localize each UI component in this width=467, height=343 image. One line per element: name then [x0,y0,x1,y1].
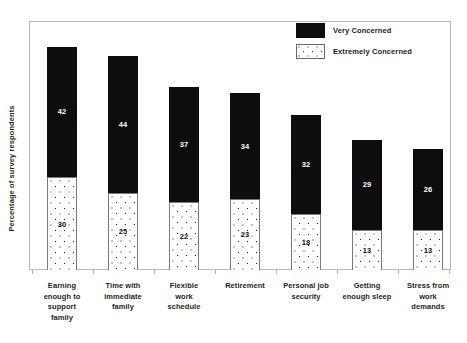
bar-segment-extremely-concerned: 18 [291,214,321,270]
y-axis-title-text: Percentage of survey respondents [7,105,16,231]
chart-figure: Percentage of survey respondents 4230442… [0,0,467,343]
solid-black-swatch-icon [296,23,325,38]
dotted-white-swatch-icon [296,44,325,59]
x-axis-tick [398,270,399,274]
bar-segment-very-concerned: 26 [413,149,443,230]
x-axis-label-6: Stress fromworkdemands [397,281,459,313]
bar-value-extremely-concerned: 30 [58,220,67,229]
x-axis-label-line: support [31,302,93,313]
bar-segment-extremely-concerned: 13 [352,230,382,270]
bar-segment-extremely-concerned: 25 [108,193,138,271]
bar-group: 4425 [108,56,138,270]
bar-segment-extremely-concerned: 13 [413,230,443,270]
legend-label-extremely-concerned: Extremely Concerned [333,47,412,56]
x-axis-label-line: family [31,313,93,324]
bar-group: 3423 [230,93,260,270]
bar-value-very-concerned: 34 [241,142,250,151]
x-axis-label-line: enough to [31,292,93,303]
bar-segment-extremely-concerned: 22 [169,202,199,270]
x-axis-label-2: Flexibleworkschedule [153,281,215,313]
x-axis-label-line: Getting [336,281,398,292]
x-axis-label-line: family [92,302,154,313]
chart-title [0,0,467,2]
bar-group: 2913 [352,140,382,270]
x-axis-label-line: Flexible [153,281,215,292]
x-axis-tick [215,270,216,274]
x-axis-label-line: work [397,292,459,303]
chart-legend: Very Concerned Extremely Concerned [296,23,446,65]
x-axis-label-line: security [275,292,337,303]
x-axis-label-line: Stress from [397,281,459,292]
bar-value-very-concerned: 26 [424,185,433,194]
x-axis-label-line: Earning [31,281,93,292]
x-axis-label-line: work [153,292,215,303]
bar-value-extremely-concerned: 13 [424,246,433,255]
x-axis-tick [337,270,338,274]
x-axis-label-line: immediate [92,292,154,303]
bar-segment-very-concerned: 44 [108,56,138,192]
x-axis-tick [32,270,33,274]
bar-segment-very-concerned: 29 [352,140,382,230]
bar-value-very-concerned: 29 [363,180,372,189]
x-axis-label-3: Retirement [214,281,276,292]
bar-value-extremely-concerned: 18 [302,238,311,247]
legend-label-very-concerned: Very Concerned [333,26,392,35]
bar-value-very-concerned: 37 [180,140,189,149]
bar-group: 2613 [413,149,443,270]
bar-value-extremely-concerned: 25 [119,227,128,236]
x-axis-label-line: enough sleep [336,292,398,303]
bar-value-very-concerned: 32 [302,160,311,169]
bar-segment-very-concerned: 37 [169,87,199,202]
x-axis-label-0: Earningenough tosupportfamily [31,281,93,323]
y-axis-title: Percentage of survey respondents [2,62,20,274]
x-axis-label-line: schedule [153,302,215,313]
bar-group: 4230 [47,47,77,270]
x-axis-label-line: Retirement [214,281,276,292]
bar-segment-very-concerned: 42 [47,47,77,177]
bar-value-very-concerned: 42 [58,107,67,116]
x-axis-label-4: Personal jobsecurity [275,281,337,302]
bar-segment-extremely-concerned: 23 [230,199,260,270]
legend-item-extremely-concerned: Extremely Concerned [296,44,446,59]
x-axis-tick [154,270,155,274]
x-axis-label-5: Gettingenough sleep [336,281,398,302]
x-axis-label-line: demands [397,302,459,313]
x-axis-label-line: Time with [92,281,154,292]
bar-segment-very-concerned: 32 [291,115,321,214]
x-axis-label-1: Time withimmediatefamily [92,281,154,313]
legend-item-very-concerned: Very Concerned [296,23,446,38]
bar-value-very-concerned: 44 [119,120,128,129]
x-axis-tick [93,270,94,274]
x-axis-tick [449,270,450,274]
bar-value-extremely-concerned: 13 [363,246,372,255]
x-axis-tick [276,270,277,274]
bar-group: 3722 [169,87,199,270]
bar-segment-very-concerned: 34 [230,93,260,198]
bar-group: 3218 [291,115,321,270]
bar-value-extremely-concerned: 22 [180,232,189,241]
bar-segment-extremely-concerned: 30 [47,177,77,270]
x-axis-label-line: Personal job [275,281,337,292]
bar-value-extremely-concerned: 23 [241,230,250,239]
